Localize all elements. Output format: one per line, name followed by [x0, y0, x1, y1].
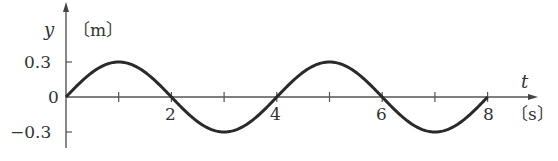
y-unit-label: 〔m〕	[73, 20, 123, 40]
y-tick-label-pos: 0.3	[24, 52, 51, 72]
t-unit-label: 〔s〕	[511, 104, 554, 124]
y-axis-label: y	[43, 19, 55, 40]
y-axis-arrow-icon	[63, 2, 69, 12]
x-tick-label-6: 6	[376, 104, 387, 124]
x-tick-label-4: 4	[270, 104, 281, 124]
x-tick-label-8: 8	[483, 104, 494, 124]
x-tick-label-2: 2	[165, 104, 176, 124]
t-axis-arrow-icon	[528, 94, 538, 100]
t-axis-label: t	[521, 71, 529, 92]
y-tick-label-neg: −0.3	[10, 122, 51, 142]
chart-svg: y 〔m〕 0.3 0 −0.3 2 4 6 8 t 〔s〕	[0, 0, 558, 161]
wave-graph: y 〔m〕 0.3 0 −0.3 2 4 6 8 t 〔s〕	[0, 0, 558, 161]
y-tick-label-zero: 0	[48, 87, 59, 107]
